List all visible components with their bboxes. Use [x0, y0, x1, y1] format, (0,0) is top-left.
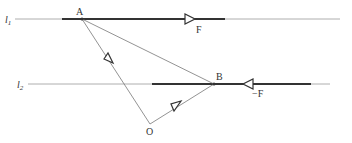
segment-AB: [82, 19, 214, 84]
label-O: O: [146, 126, 153, 137]
arrow-right-icon: [185, 14, 195, 24]
label-B: B: [216, 71, 223, 82]
label-negF: −F: [252, 88, 264, 99]
label-l2: l2: [17, 79, 24, 92]
segment-OA: [82, 19, 150, 124]
label-A: A: [76, 6, 84, 17]
label-l1: l1: [5, 14, 11, 27]
point-A: [81, 18, 84, 21]
point-B: [213, 83, 216, 86]
label-F: F: [196, 24, 202, 35]
segment-OB: [150, 84, 214, 124]
force-couple-diagram: l1 l2 A B O F −F: [0, 0, 352, 143]
